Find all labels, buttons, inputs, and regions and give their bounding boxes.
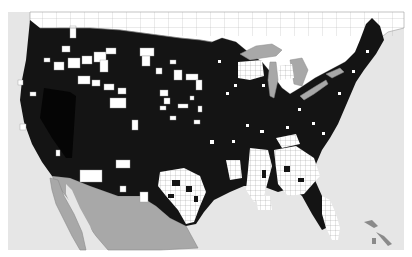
map-canvas [0, 0, 412, 257]
choropleth-map [0, 0, 412, 257]
